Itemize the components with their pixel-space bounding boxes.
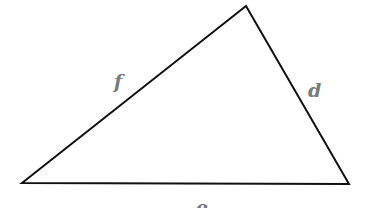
side-label-d: d bbox=[308, 79, 321, 101]
side-label-f: f bbox=[112, 70, 125, 92]
triangle bbox=[22, 6, 349, 184]
side-label-e: e bbox=[196, 196, 208, 208]
triangle-diagram: f d e bbox=[0, 0, 366, 208]
